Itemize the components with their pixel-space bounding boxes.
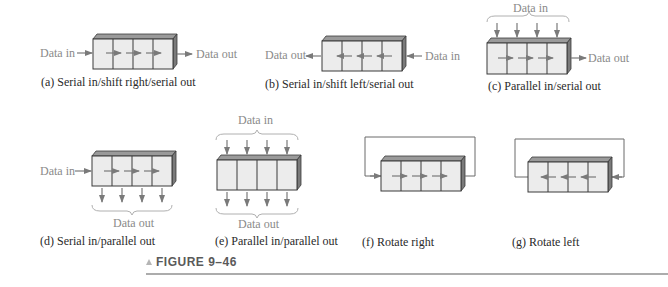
input-brace bbox=[216, 130, 298, 140]
data-out-label: Data out bbox=[113, 216, 155, 230]
panel-g-rotate-left: (g) Rotate left bbox=[512, 139, 624, 249]
data-out-label: Data out bbox=[196, 47, 238, 61]
register-block bbox=[528, 157, 612, 192]
panel-d-serial-in-parallel-out: Data in Data out (d) Serial in/parallel … bbox=[40, 151, 176, 248]
panel-e-parallel-in-parallel-out: Data in Data out (e) Parallel in/paralle… bbox=[215, 113, 339, 248]
panel-c-parallel-in-serial-out: Data in Data out (c) Parallel in/serial … bbox=[487, 1, 630, 93]
register-block bbox=[93, 34, 177, 69]
caption-f: (f) Rotate right bbox=[362, 235, 435, 249]
data-out-label: Data out bbox=[588, 51, 630, 65]
output-brace bbox=[92, 205, 172, 215]
data-in-label: Data in bbox=[40, 164, 75, 178]
figure-label: FIGURE 9–46 bbox=[156, 255, 237, 269]
caption-g: (g) Rotate left bbox=[512, 235, 580, 249]
input-brace bbox=[487, 12, 569, 22]
register-block bbox=[322, 36, 406, 71]
panel-b-serial-in-shift-left: Data out Data in (b) Serial in/shift lef… bbox=[265, 36, 460, 91]
caption-a: (a) Serial in/shift right/serial out bbox=[41, 75, 196, 89]
register-block bbox=[217, 155, 301, 190]
caption-b: (b) Serial in/shift left/serial out bbox=[265, 77, 414, 91]
register-block bbox=[487, 38, 571, 74]
caption-d: (d) Serial in/parallel out bbox=[40, 234, 156, 248]
data-in-label: Data in bbox=[238, 113, 273, 127]
panel-a-serial-in-shift-right: Data in Data out (a) Serial in/shift rig… bbox=[40, 34, 238, 89]
triangle-up-icon bbox=[146, 259, 152, 265]
register-block bbox=[381, 156, 465, 191]
data-out-label: Data out bbox=[265, 48, 307, 62]
data-out-label: Data out bbox=[238, 217, 280, 231]
panel-f-rotate-right: (f) Rotate right bbox=[362, 137, 475, 249]
data-in-label: Data in bbox=[513, 1, 548, 15]
data-in-label: Data in bbox=[425, 49, 460, 63]
shift-register-figure: Data in Data out (a) Serial in/shift rig… bbox=[0, 0, 668, 287]
data-in-label: Data in bbox=[40, 46, 75, 60]
caption-c: (c) Parallel in/serial out bbox=[488, 79, 602, 93]
figure-caption-bar: FIGURE 9–46 bbox=[146, 255, 668, 274]
caption-e: (e) Parallel in/parallel out bbox=[215, 234, 339, 248]
register-block bbox=[92, 151, 176, 186]
